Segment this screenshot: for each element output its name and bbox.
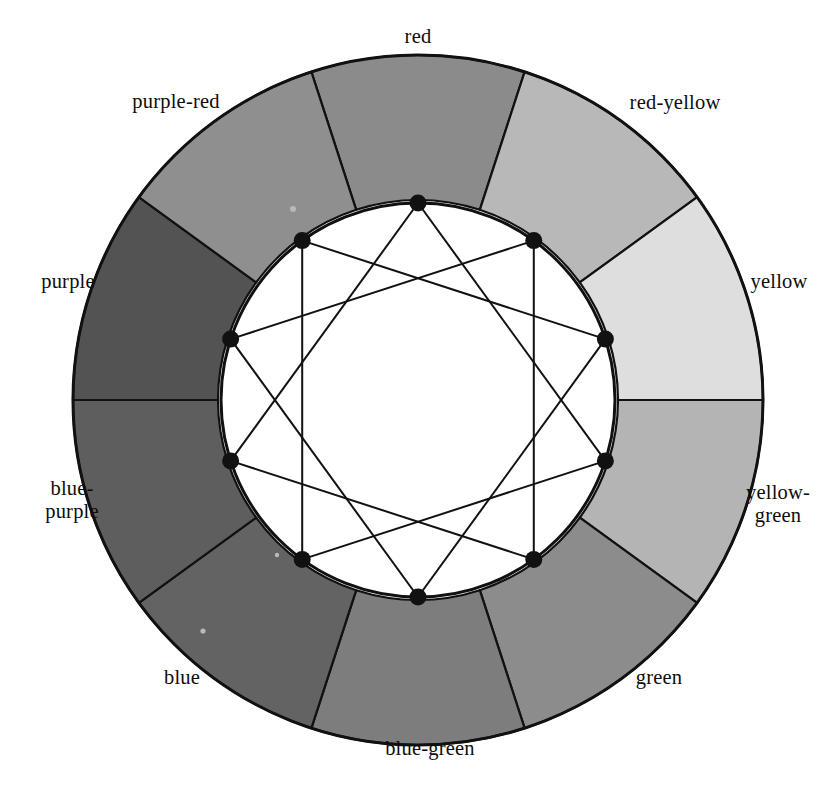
inner-disc-group	[221, 203, 615, 597]
vertex-dot	[410, 195, 427, 212]
paper-speck	[200, 628, 205, 633]
vertex-dot	[222, 452, 239, 469]
vertex-dot	[597, 452, 614, 469]
color-wheel-graphic	[0, 0, 836, 793]
wheel-label-red-yellow: red-yellow	[630, 91, 721, 114]
wheel-label-blue-green: blue-green	[385, 737, 475, 760]
vertex-dot	[597, 331, 614, 348]
vertex-dot	[294, 551, 311, 568]
vertex-dot	[222, 331, 239, 348]
wheel-label-blue: blue	[164, 666, 200, 689]
inner-white-disc	[221, 203, 615, 597]
paper-speck	[275, 553, 279, 557]
wheel-label-yellow-green: yellow- green	[746, 481, 810, 527]
wheel-label-purple-red: purple-red	[132, 90, 219, 113]
color-wheel-figure: redred-yellowyellowyellow- greengreenblu…	[0, 0, 836, 793]
vertex-dot	[410, 589, 427, 606]
wheel-label-yellow: yellow	[751, 270, 808, 293]
vertex-dot	[525, 551, 542, 568]
wheel-label-green: green	[636, 666, 683, 689]
wheel-label-purple: purple	[41, 270, 95, 293]
wheel-label-red: red	[405, 25, 432, 48]
vertex-dot	[525, 232, 542, 249]
paper-speck	[290, 206, 296, 212]
vertex-dot	[294, 232, 311, 249]
paper-speck	[618, 131, 623, 136]
wheel-label-blue-purple: blue- purple	[45, 477, 99, 523]
